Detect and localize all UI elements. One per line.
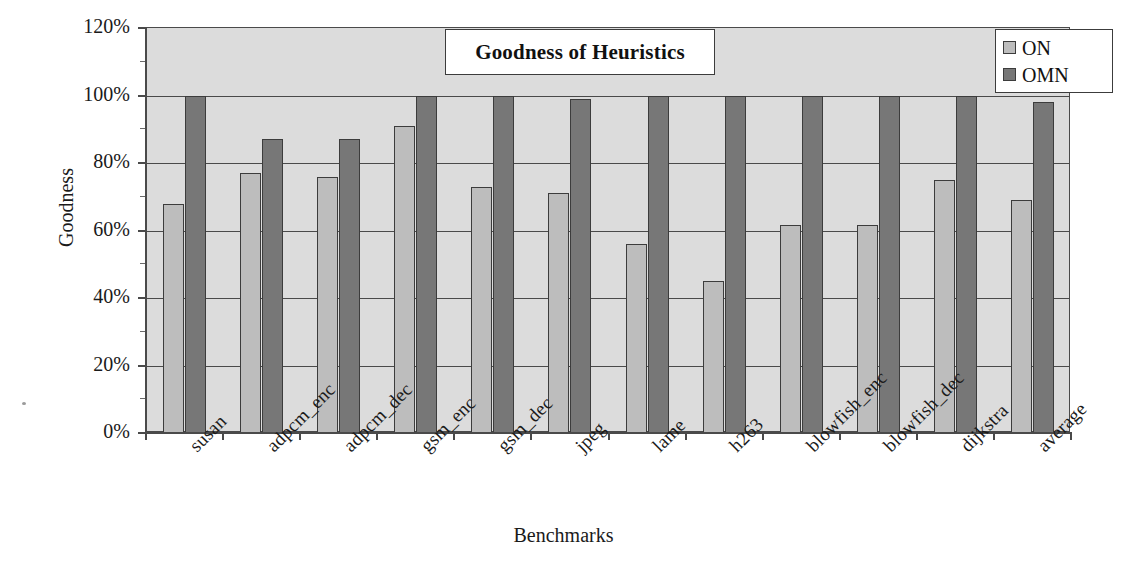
legend-entry-ON: ON	[1003, 34, 1112, 61]
chart-title: Goodness of Heuristics	[475, 40, 685, 65]
y-tick-120	[138, 27, 146, 29]
bar-gsm_dec-ON	[471, 187, 492, 433]
chart-title-box: Goodness of Heuristics	[445, 29, 715, 75]
y-minor-tick-110	[140, 61, 145, 62]
gridline-20	[146, 366, 1069, 367]
bar-jpeg-ON	[548, 193, 569, 433]
y-tick-label-100%: 100%	[40, 84, 130, 104]
y-tick-100	[138, 95, 146, 97]
legend-entry-OMN: OMN	[1003, 61, 1112, 88]
y-tick-80	[138, 162, 146, 164]
legend-label-ON: ON	[1022, 38, 1051, 58]
bar-lame-OMN	[648, 96, 669, 434]
bar-susan-OMN	[185, 96, 206, 434]
y-tick-label-80%: 80%	[40, 151, 130, 171]
plot-area	[145, 27, 1070, 432]
gridline-80	[146, 163, 1069, 164]
gridline-40	[146, 298, 1069, 299]
bar-h263-OMN	[725, 96, 746, 434]
chart-legend: ONOMN	[995, 29, 1113, 93]
gridline-100	[146, 96, 1069, 97]
bar-adpcm_dec-OMN	[339, 139, 360, 433]
y-minor-tick-30	[140, 331, 145, 332]
x-tick-origin	[145, 432, 147, 440]
y-tick-40	[138, 297, 146, 299]
y-minor-tick-10	[140, 398, 145, 399]
y-tick-label-60%: 60%	[40, 219, 130, 239]
y-tick-label-0%: 0%	[40, 421, 130, 441]
bar-chart-figure: 0%20%40%60%80%100%120% susanadpcm_encadp…	[0, 0, 1127, 574]
y-tick-60	[138, 230, 146, 232]
bar-blowfish_enc-ON	[780, 225, 801, 433]
light-gray-swatch	[1003, 41, 1016, 54]
y-minor-tick-90	[140, 128, 145, 129]
bar-gsm_dec-OMN	[493, 96, 514, 434]
bar-susan-ON	[163, 204, 184, 434]
y-tick-label-120%: 120%	[40, 16, 130, 36]
bar-average-OMN	[1033, 102, 1054, 433]
legend-label-OMN: OMN	[1022, 65, 1069, 85]
bar-h263-ON	[703, 281, 724, 433]
bar-adpcm_enc-OMN	[262, 139, 283, 433]
bar-average-ON	[1011, 200, 1032, 433]
gridline-60	[146, 231, 1069, 232]
y-minor-tick-70	[140, 196, 145, 197]
y-axis-title: Goodness	[55, 128, 78, 288]
scan-artifact-speck	[22, 402, 26, 405]
bar-lame-ON	[626, 244, 647, 433]
dark-gray-swatch	[1003, 68, 1016, 81]
y-tick-label-40%: 40%	[40, 286, 130, 306]
y-tick-20	[138, 365, 146, 367]
y-tick-label-20%: 20%	[40, 354, 130, 374]
bar-adpcm_enc-ON	[240, 173, 261, 433]
bar-jpeg-OMN	[570, 99, 591, 433]
y-minor-tick-50	[140, 263, 145, 264]
bar-blowfish_enc-OMN	[802, 96, 823, 434]
bar-gsm_enc-OMN	[416, 96, 437, 434]
x-axis-title: Benchmarks	[0, 524, 1127, 547]
